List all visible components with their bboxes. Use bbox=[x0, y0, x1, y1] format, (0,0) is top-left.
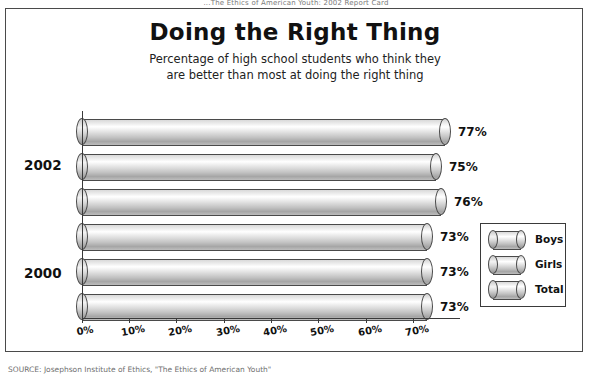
legend-cylinder-right-cap bbox=[516, 255, 526, 274]
bar-value-2000-total: 73% bbox=[440, 300, 469, 314]
bar-2000-girls bbox=[82, 259, 427, 284]
x-tick-label-50: 50% bbox=[309, 323, 334, 338]
legend-cylinder-left-cap bbox=[488, 230, 498, 249]
bar-right-cap bbox=[435, 188, 447, 215]
x-tick-60 bbox=[366, 319, 367, 323]
chart-screenshot: ...The Ethics of American Youth: 2002 Re… bbox=[0, 0, 592, 374]
bar-body bbox=[82, 294, 427, 321]
x-tick-70 bbox=[413, 319, 414, 323]
y-axis-line bbox=[82, 111, 83, 318]
legend-cylinder-girls bbox=[493, 256, 521, 273]
group-label-2002: 2002 bbox=[24, 157, 62, 173]
legend-label-girls: Girls bbox=[535, 258, 562, 270]
bar-2000-boys bbox=[82, 224, 427, 249]
bar-right-cap bbox=[421, 258, 433, 285]
bar-2002-boys bbox=[82, 119, 445, 144]
group-label-2000: 2000 bbox=[24, 265, 62, 281]
legend-cylinder-left-cap bbox=[488, 280, 498, 299]
x-tick-0 bbox=[82, 319, 83, 323]
x-tick-30 bbox=[224, 319, 225, 323]
legend-item-boys: Boys bbox=[487, 231, 563, 248]
x-tick-label-30: 30% bbox=[215, 323, 240, 338]
bar-value-2002-girls: 75% bbox=[449, 160, 478, 174]
x-tick-10 bbox=[129, 319, 130, 323]
bar-body bbox=[82, 259, 427, 286]
legend-item-total: Total bbox=[487, 281, 563, 298]
chart-subtitle: Percentage of high school students who t… bbox=[6, 51, 584, 83]
legend-swatch-total bbox=[487, 281, 527, 298]
bar-body bbox=[82, 189, 441, 216]
legend-swatch-girls bbox=[487, 256, 527, 273]
chart-subtitle-line-2: are better than most at doing the right … bbox=[6, 67, 584, 83]
bar-right-cap bbox=[439, 118, 451, 145]
bar-right-cap bbox=[430, 153, 442, 180]
chart-legend: Boys Girls bbox=[480, 223, 566, 307]
x-tick-label-70: 70% bbox=[404, 323, 429, 338]
x-tick-label-60: 60% bbox=[357, 323, 382, 338]
bar-value-2002-total: 76% bbox=[454, 195, 483, 209]
chart-title: Doing the Right Thing bbox=[6, 19, 584, 45]
legend-swatch-boys bbox=[487, 231, 527, 248]
legend-cylinder-right-cap bbox=[516, 230, 526, 249]
legend-cylinder-right-cap bbox=[516, 280, 526, 299]
x-tick-20 bbox=[176, 319, 177, 323]
legend-item-girls: Girls bbox=[487, 256, 563, 273]
legend-label-boys: Boys bbox=[535, 233, 563, 245]
x-tick-label-0: 0% bbox=[76, 324, 95, 338]
legend-label-total: Total bbox=[535, 283, 564, 295]
x-tick-label-20: 20% bbox=[167, 323, 192, 338]
x-tick-50 bbox=[318, 319, 319, 323]
bar-2000-total bbox=[82, 294, 427, 319]
bar-right-cap bbox=[421, 293, 433, 320]
chart-subtitle-line-1: Percentage of high school students who t… bbox=[6, 51, 584, 67]
legend-cylinder-left-cap bbox=[488, 255, 498, 274]
x-tick-40 bbox=[271, 319, 272, 323]
bar-value-2000-girls: 73% bbox=[440, 265, 469, 279]
x-tick-label-10: 10% bbox=[120, 323, 145, 338]
bar-2002-girls bbox=[82, 154, 436, 179]
x-tick-label-40: 40% bbox=[262, 323, 287, 338]
bar-body bbox=[82, 224, 427, 251]
bar-value-2000-boys: 73% bbox=[440, 230, 469, 244]
top-caption: ...The Ethics of American Youth: 2002 Re… bbox=[0, 0, 592, 7]
legend-cylinder-boys bbox=[493, 231, 521, 248]
bar-right-cap bbox=[421, 223, 433, 250]
bar-2002-total bbox=[82, 189, 441, 214]
chart-frame: Doing the Right Thing Percentage of high… bbox=[5, 8, 583, 352]
legend-cylinder-total bbox=[493, 281, 521, 298]
source-caption: SOURCE: Josephson Institute of Ethics, "… bbox=[8, 365, 271, 374]
bar-body bbox=[82, 119, 445, 146]
bar-value-2002-boys: 77% bbox=[458, 125, 487, 139]
bar-body bbox=[82, 154, 436, 181]
